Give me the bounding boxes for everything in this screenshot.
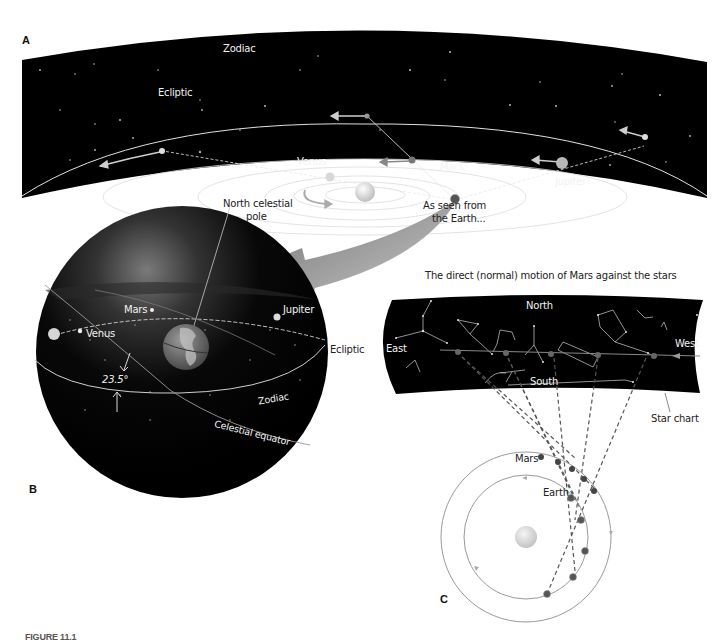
small-star [199, 151, 201, 153]
label-zodiac-a: Zodiac [223, 43, 256, 54]
label-jupiter-b: Jupiter [283, 304, 314, 315]
planet-mars-far-a [364, 113, 369, 118]
panel-label-a: A [22, 34, 30, 46]
planet-far-jupiter-a [642, 134, 648, 140]
panel-a-solar-system [22, 30, 707, 235]
sightlines-c [462, 357, 646, 594]
label-as-seen-line2: the Earth... [432, 213, 486, 224]
planet-far-venus-a [159, 148, 165, 154]
sun-a [355, 182, 375, 202]
zodiac-band [22, 30, 707, 198]
label-north-celestial-line2: pole [246, 211, 267, 222]
label-mars-c: Mars [515, 453, 538, 464]
panel-label-b: B [29, 483, 37, 495]
sun-c [515, 526, 537, 548]
planet-venus-b [78, 329, 82, 333]
panel-label-c: C [440, 593, 448, 605]
label-venus-b: Venus [86, 328, 115, 339]
label-jupiter-a: Jupiter [555, 176, 586, 187]
label-star-chart: Star chart [651, 413, 699, 424]
label-north-celestial-line1: North celestial [223, 198, 293, 209]
label-north: North [526, 300, 553, 311]
label-mars-a: Mars [440, 161, 463, 172]
star-chart-pointer [665, 393, 670, 412]
label-west: West [675, 338, 699, 349]
label-tilt-angle: 23.5° [102, 374, 128, 385]
planet-venus-a [326, 173, 335, 182]
label-venus-a: Venus [297, 156, 326, 167]
planet-mars-b [150, 308, 154, 312]
label-south: South [530, 376, 558, 387]
label-earth-c: Earth [543, 487, 569, 498]
label-east: East [386, 343, 407, 354]
star-chart-title: The direct (normal) motion of Mars again… [425, 270, 677, 281]
label-ecliptic-a: Ecliptic [158, 87, 192, 98]
planet-jupiter-a [556, 157, 568, 169]
label-ecliptic-b: Ecliptic [330, 344, 364, 355]
planet-sun-b [48, 328, 60, 340]
retrograde-motion-figure [0, 0, 727, 640]
panel-c-star-chart [383, 295, 703, 622]
figure-caption: FIGURE 11.1 [25, 632, 76, 640]
planet-mars-a [409, 157, 416, 164]
panel-b-celestial-sphere [35, 206, 328, 498]
label-mars-b: Mars [124, 304, 147, 315]
label-as-seen-line1: As seen from [423, 200, 486, 211]
planet-jupiter-b [274, 314, 281, 321]
